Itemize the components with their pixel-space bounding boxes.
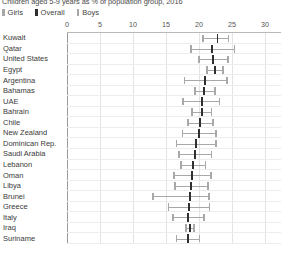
overall-marker	[201, 97, 203, 106]
x-tick-label: 15	[162, 20, 170, 29]
girls-marker	[187, 119, 189, 126]
overall-marker	[189, 224, 191, 233]
x-tick-label: 20	[195, 20, 203, 29]
range-marker	[0, 128, 281, 139]
chart-row[interactable]: Bahamas	[0, 86, 281, 97]
chart-row[interactable]: Kuwait	[0, 33, 281, 44]
overall-marker	[214, 66, 216, 75]
chart-row[interactable]: Dominican Rep.	[0, 138, 281, 149]
boys-marker	[211, 108, 213, 115]
chart-row[interactable]: Argentina	[0, 75, 281, 86]
boys-marker	[205, 161, 207, 168]
range-marker	[0, 107, 281, 118]
range-marker	[0, 96, 281, 107]
overall-marker	[188, 203, 190, 212]
boys-marker	[222, 66, 224, 73]
boys-marker	[212, 119, 214, 126]
range-marker	[0, 117, 281, 128]
boys-marker	[199, 235, 201, 242]
girls-marker	[176, 140, 178, 147]
girls-marker	[202, 35, 204, 42]
girls-marker	[184, 77, 186, 84]
overall-marker	[204, 76, 206, 85]
boys-marker	[226, 77, 228, 84]
overall-marker	[198, 129, 200, 138]
chart-row[interactable]: Greece	[0, 202, 281, 213]
legend-label: Boys	[82, 8, 99, 17]
girls-marker	[182, 98, 184, 105]
chart-row[interactable]: Oman	[0, 170, 281, 181]
boys-marker	[209, 203, 211, 210]
chart-row[interactable]: Egypt	[0, 65, 281, 76]
chart-legend: GirlsOverallBoys	[2, 7, 111, 17]
chart-row[interactable]: Suriname	[0, 233, 281, 244]
range-marker	[0, 44, 281, 55]
legend-item-girls[interactable]: Girls	[2, 8, 23, 17]
legend-item-overall[interactable]: Overall	[35, 8, 65, 17]
chart-row[interactable]: New Zealand	[0, 128, 281, 139]
x-tick-label: 25	[228, 20, 236, 29]
range-marker	[0, 65, 281, 76]
range-marker	[0, 138, 281, 149]
legend-item-boys[interactable]: Boys	[77, 8, 99, 17]
range-marker	[0, 223, 281, 234]
boys-marker	[207, 182, 209, 189]
legend-label: Overall	[41, 8, 65, 17]
legend-label: Girls	[8, 8, 24, 17]
overall-marker	[187, 234, 189, 243]
overall-marker	[212, 55, 214, 64]
overall-marker	[199, 118, 201, 127]
chart-row[interactable]: Chile	[0, 117, 281, 128]
chart-row[interactable]: Lebanon	[0, 160, 281, 171]
chart-row[interactable]: Bahrain	[0, 107, 281, 118]
girls-marker	[194, 87, 196, 94]
girls-marker	[191, 108, 193, 115]
x-tick-label: 0	[65, 20, 69, 29]
girls-marker	[178, 151, 180, 158]
girls-marker	[182, 130, 184, 137]
boys-marker	[214, 87, 216, 94]
overall-marker	[201, 108, 203, 117]
chart-row[interactable]: Brunei	[0, 191, 281, 202]
legend-swatch-icon	[35, 9, 38, 16]
boys-marker	[203, 214, 205, 221]
range-marker	[0, 233, 281, 244]
x-tick-label: 10	[129, 20, 137, 29]
overall-marker	[189, 192, 191, 201]
chart-row[interactable]: Saudi Arabia	[0, 149, 281, 160]
x-tick-label: 30	[261, 20, 269, 29]
girls-marker	[172, 214, 174, 221]
girls-marker	[206, 66, 208, 73]
range-marker	[0, 170, 281, 181]
overall-marker	[191, 171, 193, 180]
range-marker	[0, 212, 281, 223]
range-marker	[0, 86, 281, 97]
range-marker	[0, 202, 281, 213]
chart-row[interactable]: United States	[0, 54, 281, 65]
range-connector	[153, 196, 209, 197]
chart-row[interactable]: UAE	[0, 96, 281, 107]
girls-marker	[174, 182, 176, 189]
overall-marker	[195, 139, 197, 148]
overall-marker	[187, 213, 189, 222]
chart-row[interactable]: Libya	[0, 181, 281, 192]
boys-marker	[227, 56, 229, 63]
overall-marker	[211, 45, 213, 54]
overall-marker	[190, 182, 192, 191]
girls-marker	[176, 235, 178, 242]
girls-marker	[185, 224, 187, 231]
boys-marker	[234, 45, 236, 52]
chart-row[interactable]: Italy	[0, 212, 281, 223]
girls-marker	[190, 45, 192, 52]
girls-marker	[168, 203, 170, 210]
boys-marker	[228, 35, 230, 42]
range-marker	[0, 191, 281, 202]
x-tick-label: 5	[98, 20, 102, 29]
chart-container: Children aged 5-9 years as % of populati…	[0, 0, 281, 268]
range-marker	[0, 33, 281, 44]
overall-marker	[194, 150, 196, 159]
chart-row[interactable]: Qatar	[0, 44, 281, 55]
chart-row[interactable]: Iraq	[0, 223, 281, 234]
girls-marker	[152, 193, 154, 200]
legend-swatch-icon	[77, 9, 80, 16]
